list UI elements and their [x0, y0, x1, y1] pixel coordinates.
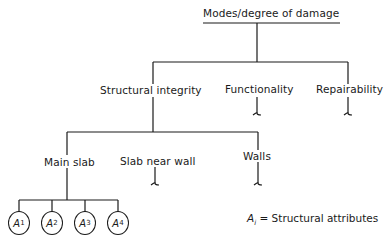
legend-symbol: Ai — [247, 212, 256, 224]
node-main-slab: Main slab — [44, 156, 95, 168]
leaf-subscript: 3 — [86, 219, 90, 227]
node-repairability: Repairability — [316, 83, 383, 95]
node-structural-integrity: Structural integrity — [100, 84, 202, 96]
leaf-subscript: 1 — [20, 219, 24, 227]
leaf-subscript: 4 — [119, 219, 123, 227]
leaf-node-a2: A2 — [41, 211, 63, 235]
leaf-subscript: 2 — [53, 219, 57, 227]
node-walls: Walls — [243, 150, 271, 162]
node-slab-near-wall: Slab near wall — [120, 155, 195, 167]
node-functionality: Functionality — [225, 83, 294, 95]
legend-text: = Structural attributes — [259, 212, 378, 224]
root-node-label: Modes/degree of damage — [203, 7, 339, 19]
leaf-symbol: A — [13, 218, 20, 229]
leaf-node-a4: A4 — [107, 211, 129, 235]
legend: Ai = Structural attributes — [247, 212, 378, 227]
leaf-symbol: A — [46, 218, 53, 229]
legend-subscript: i — [254, 219, 256, 227]
leaf-symbol: A — [79, 218, 86, 229]
leaf-node-a3: A3 — [74, 211, 96, 235]
leaf-node-a1: A1 — [8, 211, 30, 235]
connector-lines — [0, 0, 387, 243]
leaf-symbol: A — [112, 218, 119, 229]
